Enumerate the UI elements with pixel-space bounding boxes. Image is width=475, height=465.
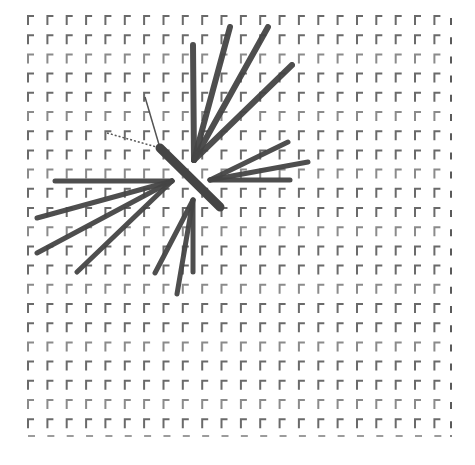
- grid-mark: [280, 342, 286, 351]
- grid-mark: [260, 54, 266, 63]
- grid-mark: [396, 362, 402, 371]
- grid-mark: [280, 131, 286, 140]
- grid-mark: [318, 246, 324, 255]
- grid-mark: [67, 381, 73, 390]
- grid-mark: [183, 342, 189, 351]
- grid-mark: [299, 16, 305, 25]
- grid-mark: [396, 74, 402, 83]
- grid-mark: [299, 93, 305, 102]
- grid-mark: [222, 342, 228, 351]
- grid-mark: [415, 35, 421, 44]
- grid-mark: [357, 419, 363, 428]
- grid-mark: [434, 131, 440, 140]
- grid-mark: [164, 342, 170, 351]
- grid-mark: [357, 131, 363, 140]
- grid-mark: [357, 227, 363, 236]
- grid-mark: [434, 16, 440, 25]
- grid-mark: [357, 93, 363, 102]
- grid-mark: [280, 323, 286, 332]
- grid-mark: [241, 342, 247, 351]
- grid-mark: [28, 227, 34, 236]
- grid-mark: [28, 342, 34, 351]
- grid-mark: [202, 54, 208, 63]
- grid-mark: [202, 208, 208, 217]
- grid-mark: [415, 54, 421, 63]
- grid-mark: [202, 74, 208, 83]
- grid-mark: [144, 304, 150, 313]
- grid-mark: [338, 285, 344, 294]
- grid-mark: [280, 304, 286, 313]
- grid-mark: [144, 35, 150, 44]
- grid-mark: [376, 266, 382, 275]
- grid-mark: [396, 400, 402, 409]
- grid-mark: [376, 419, 382, 428]
- grid-mark: [280, 16, 286, 25]
- grid-mark: [338, 189, 344, 198]
- grid-mark: [260, 381, 266, 390]
- grid-mark: [299, 74, 305, 83]
- grid-mark: [144, 131, 150, 140]
- grid-mark: [86, 381, 92, 390]
- grid-mark: [376, 381, 382, 390]
- grid-mark: [47, 150, 53, 159]
- grid-mark: [338, 54, 344, 63]
- grid-mark: [144, 246, 150, 255]
- grid-mark: [338, 150, 344, 159]
- grid-mark: [183, 323, 189, 332]
- grid-mark: [338, 131, 344, 140]
- grid-mark: [125, 54, 131, 63]
- grid-mark: [47, 419, 53, 428]
- grid-mark: [125, 342, 131, 351]
- grid-mark: [434, 112, 440, 121]
- grid-mark: [67, 342, 73, 351]
- grid-mark: [299, 304, 305, 313]
- grid-mark: [260, 208, 266, 217]
- grid-mark: [183, 189, 189, 198]
- grid-mark: [105, 93, 111, 102]
- grid-mark: [144, 400, 150, 409]
- grid-mark: [222, 246, 228, 255]
- grid-mark: [164, 285, 170, 294]
- grid-mark: [396, 35, 402, 44]
- grid-mark: [280, 246, 286, 255]
- grid-mark: [105, 54, 111, 63]
- grid-mark: [67, 323, 73, 332]
- grid-mark: [280, 227, 286, 236]
- grid-mark: [105, 342, 111, 351]
- grid-mark: [47, 54, 53, 63]
- grid-mark: [47, 400, 53, 409]
- grid-mark: [338, 342, 344, 351]
- grid-mark: [105, 16, 111, 25]
- lower-fan: [155, 200, 193, 294]
- grid-mark: [47, 170, 53, 179]
- grid-mark: [260, 131, 266, 140]
- grid-mark: [280, 93, 286, 102]
- grid-mark: [67, 189, 73, 198]
- grid-mark: [241, 285, 247, 294]
- grid-mark: [434, 419, 440, 428]
- grid-mark: [415, 208, 421, 217]
- grid-mark: [202, 362, 208, 371]
- grid-mark: [241, 419, 247, 428]
- grid-mark: [222, 227, 228, 236]
- grid-mark: [125, 112, 131, 121]
- grid-mark: [376, 16, 382, 25]
- grid-mark: [28, 54, 34, 63]
- grid-mark: [183, 74, 189, 83]
- grid-mark: [144, 16, 150, 25]
- grid-mark: [47, 304, 53, 313]
- grid-mark: [338, 381, 344, 390]
- grid-mark: [376, 323, 382, 332]
- grid-mark: [183, 54, 189, 63]
- grid-mark: [299, 208, 305, 217]
- grid-mark: [86, 400, 92, 409]
- grid-mark: [299, 323, 305, 332]
- grid-mark: [202, 170, 208, 179]
- grid-mark: [67, 362, 73, 371]
- grid-mark: [125, 400, 131, 409]
- grid-mark: [299, 362, 305, 371]
- grid-mark: [434, 362, 440, 371]
- grid-mark: [105, 170, 111, 179]
- grid-mark: [415, 246, 421, 255]
- grid-mark: [434, 74, 440, 83]
